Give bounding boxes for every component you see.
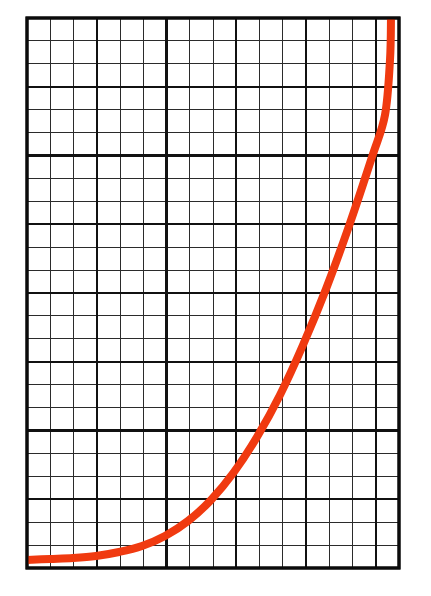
graph-figure xyxy=(0,0,431,596)
graph-canvas xyxy=(0,0,431,596)
page-root xyxy=(0,0,431,596)
